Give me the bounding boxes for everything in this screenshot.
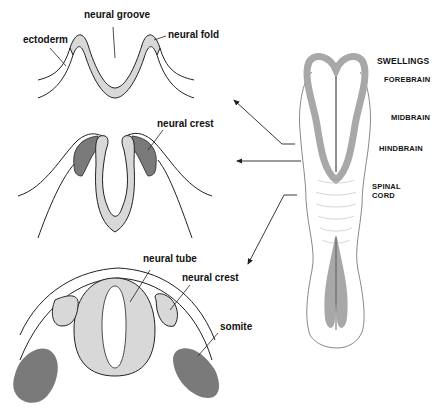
neural-plate-fill: [70, 35, 160, 98]
label-hindbrain: HINDBRAIN: [379, 144, 423, 153]
arrow-to-tube: [248, 195, 297, 264]
neural-crest-right-cell: [155, 294, 177, 327]
neural-canal: [102, 286, 126, 368]
label-spinal: SPINAL: [372, 182, 401, 191]
leader-ectoderm: [50, 48, 66, 66]
embryo-illustration: [300, 56, 371, 348]
label-neural-crest-3: neural crest: [182, 272, 239, 283]
leader-neural-crest-2: [148, 130, 163, 150]
label-midbrain: MIDBRAIN: [391, 113, 430, 122]
label-neural-fold: neural fold: [168, 29, 219, 40]
leader-somite: [198, 333, 218, 356]
label-neural-groove: neural groove: [84, 9, 150, 20]
label-neural-crest-2: neural crest: [157, 118, 214, 129]
somite-folds: [316, 180, 356, 243]
ectoderm-left-inner: [38, 160, 78, 238]
ectoderm-right-inner: [158, 160, 192, 238]
arrows: [234, 100, 301, 264]
somite-right: [173, 348, 219, 398]
label-ectoderm: ectoderm: [23, 34, 68, 45]
leader-neural-crest-3: [170, 285, 190, 310]
label-swellings: SWELLINGS: [377, 57, 429, 66]
ectoderm-inner: [38, 55, 73, 98]
ectoderm-inner-right: [157, 55, 194, 98]
label-cord: CORD: [372, 191, 395, 200]
panel-neural-crest: [18, 130, 212, 238]
label-somite: somite: [220, 321, 252, 332]
neural-tube-forming: [96, 136, 135, 232]
panel-neural-tube: [13, 268, 219, 403]
somite-left: [13, 348, 58, 402]
label-neural-tube: neural tube: [143, 253, 197, 264]
neural-crest-right: [132, 136, 156, 176]
neural-crest-left: [74, 136, 98, 176]
arrow-to-groove: [234, 100, 295, 144]
leader-neural-groove: [113, 27, 115, 58]
label-forebrain: FOREBRAIN: [384, 75, 430, 84]
